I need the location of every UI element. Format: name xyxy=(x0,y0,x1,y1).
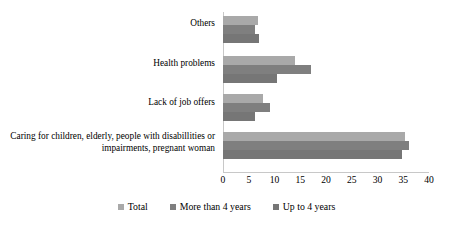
xtick-0: 0 xyxy=(221,173,226,186)
legend-item-more-than-4-years: More than 4 years xyxy=(170,201,251,213)
legend-label-up-to-4-years: Up to 4 years xyxy=(283,201,336,213)
category-label-health-problems: Health problems xyxy=(1,58,215,70)
bar-joboffers-total xyxy=(223,94,263,103)
bar-others-upto4 xyxy=(223,34,259,43)
xtick-40: 40 xyxy=(424,173,434,186)
bar-caring-more4 xyxy=(223,141,409,150)
legend-swatch-more4-icon xyxy=(170,204,176,210)
xtick-25: 25 xyxy=(347,173,357,186)
chart-legend: Total More than 4 years Up to 4 years xyxy=(0,198,453,216)
xtick-20: 20 xyxy=(321,173,331,186)
bar-health-upto4 xyxy=(223,74,277,83)
legend-swatch-total-icon xyxy=(118,204,124,210)
xtick-10: 10 xyxy=(270,173,280,186)
bar-caring-upto4 xyxy=(223,150,402,159)
xtick-35: 35 xyxy=(399,173,409,186)
bar-joboffers-more4 xyxy=(223,103,270,112)
xtick-30: 30 xyxy=(373,173,383,186)
xtick-15: 15 xyxy=(296,173,306,186)
legend-label-more-than-4-years: More than 4 years xyxy=(180,201,251,213)
legend-item-total: Total xyxy=(118,201,148,213)
bar-health-more4 xyxy=(223,65,311,74)
legend-swatch-upto4-icon xyxy=(273,204,279,210)
plot-area xyxy=(223,12,429,172)
category-label-lack-of-job-offers: Lack of job offers xyxy=(1,97,215,109)
legend-label-total: Total xyxy=(128,201,148,213)
bar-others-more4 xyxy=(223,25,255,34)
bar-others-total xyxy=(223,16,258,25)
bar-caring-total xyxy=(223,132,405,141)
x-axis-tick-labels: 0 5 10 15 20 25 30 35 40 xyxy=(223,173,438,187)
legend-item-up-to-4-years: Up to 4 years xyxy=(273,201,336,213)
bar-joboffers-upto4 xyxy=(223,112,255,121)
xtick-5: 5 xyxy=(246,173,251,186)
bar-chart: Others Health problems Lack of job offer… xyxy=(0,0,453,229)
bar-health-total xyxy=(223,56,295,65)
category-label-others: Others xyxy=(1,18,215,30)
category-axis-labels: Others Health problems Lack of job offer… xyxy=(0,0,219,172)
category-label-caring: Caring for children, elderly, people wit… xyxy=(1,131,215,154)
